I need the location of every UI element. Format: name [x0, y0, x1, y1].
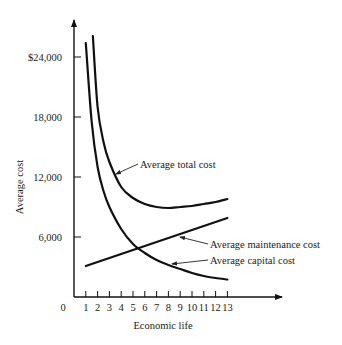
origin-label: 0 — [60, 302, 65, 313]
y-tick-label: 18,000 — [33, 112, 62, 123]
y-axis-title: Average cost — [14, 160, 25, 214]
capital-cost-leader-arrow — [172, 260, 208, 264]
label-average-total-cost: Average total cost — [140, 159, 216, 170]
x-tick-label: 9 — [178, 302, 183, 313]
x-tick-label: 13 — [222, 302, 233, 313]
x-tick-label: 4 — [119, 302, 125, 313]
total-cost-leader-arrow — [116, 164, 138, 174]
x-tick-label: 10 — [187, 302, 198, 313]
x-tick-label: 12 — [210, 302, 221, 313]
y-tick-label: 6,000 — [38, 232, 62, 243]
x-tick-label: 6 — [142, 302, 147, 313]
x-axis-title: Economic life — [133, 320, 193, 331]
x-tick-label: 1 — [83, 302, 88, 313]
x-tick-label: 5 — [130, 302, 135, 313]
x-tick-label: 2 — [95, 302, 100, 313]
x-tick-label: 7 — [154, 302, 159, 313]
x-tick-label: 11 — [199, 302, 209, 313]
series-average-total-cost — [93, 36, 228, 208]
y-tick-label: 12,000 — [33, 172, 62, 183]
y-ticks: $24,00018,00012,0006,000 — [28, 52, 81, 243]
x-tick-label: 3 — [107, 302, 112, 313]
maintenance-cost-leader-arrow — [180, 237, 208, 244]
x-ticks: 12345678910111213 — [83, 291, 232, 313]
label-average-capital-cost: Average capital cost — [210, 255, 295, 266]
label-average-maintenance-cost: Average maintenance cost — [210, 239, 320, 250]
x-tick-label: 8 — [166, 302, 171, 313]
y-tick-label: $24,000 — [28, 52, 62, 63]
cost-chart: $24,00018,00012,0006,000 123456789101112… — [0, 0, 342, 345]
